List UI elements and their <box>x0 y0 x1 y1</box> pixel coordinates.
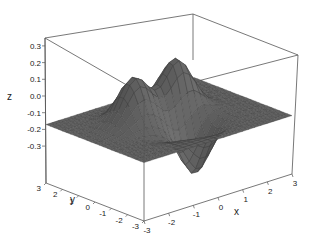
x-tick-label: 0 <box>219 203 224 212</box>
z-tick-label: -0.1 <box>27 109 41 118</box>
x-tick-label: 2 <box>268 187 273 196</box>
x-tick-label: -1 <box>193 210 201 219</box>
x-tick-label: -2 <box>168 218 176 227</box>
y-tick-label: 2 <box>53 190 58 199</box>
x-tick-label: 1 <box>243 195 248 204</box>
y-tick-label: 3 <box>37 184 42 193</box>
y-tick-label: -2 <box>116 216 124 225</box>
y-axis-label: y <box>70 194 75 205</box>
x-tick-label: -3 <box>143 226 151 235</box>
surface-mesh <box>46 58 292 173</box>
z-tick-label: -0.3 <box>27 142 41 151</box>
z-axis: 0.30.20.10.0-0.1-0.2-0.3 <box>27 38 46 183</box>
z-tick-label: 0.1 <box>30 75 42 84</box>
z-tick-label: 0.0 <box>30 92 42 101</box>
z-tick-label: 0.3 <box>30 42 42 51</box>
z-axis-label: z <box>7 91 12 102</box>
x-tick-label: 3 <box>293 179 298 188</box>
surface-plot: 0.30.20.10.0-0.1-0.2-0.3 z -3-2-10123 y … <box>0 0 316 238</box>
x-axis-label: x <box>234 206 239 217</box>
y-tick-label: -1 <box>99 209 107 218</box>
y-axis: -3-2-10123 <box>37 183 144 231</box>
z-tick-label: -0.2 <box>27 125 41 134</box>
x-axis: -3-2-10123 <box>143 174 297 235</box>
y-tick-label: -3 <box>132 222 140 231</box>
z-tick-label: 0.2 <box>30 59 42 68</box>
y-tick-label: 0 <box>86 203 91 212</box>
